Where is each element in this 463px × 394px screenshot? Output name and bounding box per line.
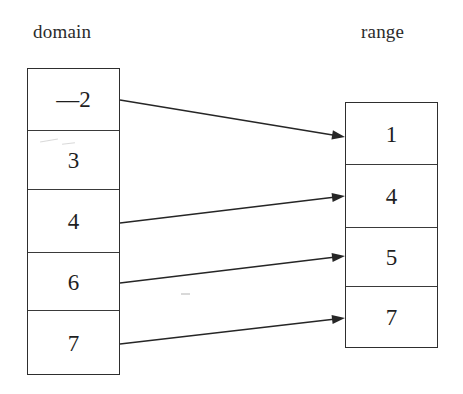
domain-cell: 6 — [28, 253, 119, 312]
mapping-arrow-shaft — [120, 319, 336, 344]
mapping-arrow — [120, 253, 345, 283]
range-cell: 5 — [346, 228, 437, 288]
domain-cell: 7 — [28, 311, 119, 374]
domain-cell-value: 6 — [68, 270, 80, 296]
scan-artifact — [181, 293, 190, 295]
domain-cell: —2 — [28, 69, 119, 131]
mapping-arrow-head — [332, 253, 345, 262]
domain-cell-value: 7 — [68, 331, 80, 357]
range-cell: 4 — [346, 165, 437, 227]
mapping-arrow — [120, 193, 345, 223]
range-cell: 1 — [346, 103, 437, 165]
function-mapping-diagram: domain range —2 3 4 6 7 1 4 5 7 — [0, 0, 463, 394]
domain-cell: 3 — [28, 131, 119, 191]
domain-heading: domain — [33, 21, 91, 43]
mapping-arrow-shaft — [120, 257, 336, 283]
range-box: 1 4 5 7 — [345, 102, 438, 348]
mapping-arrow-head — [331, 130, 345, 139]
range-cell-value: 4 — [386, 184, 398, 210]
mapping-arrow-head — [332, 315, 345, 324]
domain-box: —2 3 4 6 7 — [27, 68, 120, 375]
domain-cell-value: 3 — [68, 148, 80, 174]
range-cell: 7 — [346, 287, 437, 347]
domain-cell-value: 4 — [68, 209, 80, 235]
range-cell-value: 1 — [386, 122, 398, 148]
range-heading: range — [361, 21, 404, 43]
mapping-arrow — [120, 315, 345, 344]
range-cell-value: 7 — [386, 305, 398, 331]
range-cell-value: 5 — [386, 245, 398, 271]
domain-cell-value: —2 — [56, 87, 91, 113]
mapping-arrow-shaft — [120, 197, 336, 223]
mapping-arrow — [120, 100, 345, 139]
mapping-arrow-shaft — [120, 100, 336, 135]
mapping-arrow-head — [332, 193, 345, 202]
domain-cell: 4 — [28, 190, 119, 253]
